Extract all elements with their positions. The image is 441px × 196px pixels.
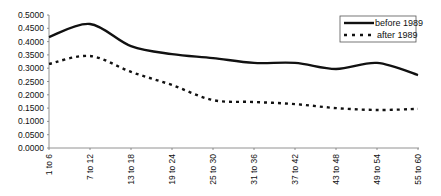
x-tick-label: 31 to 36 bbox=[249, 154, 259, 185]
x-tick-label: 19 to 24 bbox=[167, 154, 177, 185]
x-tick-label: 49 to 54 bbox=[372, 154, 382, 185]
x-tick-label: 55 to 60 bbox=[413, 154, 423, 185]
y-tick-label: 0.4000 bbox=[18, 37, 44, 47]
y-tick-label: 0.1500 bbox=[18, 103, 44, 113]
y-tick-label: 0.2500 bbox=[18, 77, 44, 87]
legend-label-after-1989: after 1989 bbox=[377, 30, 418, 40]
y-tick-label: 0.1000 bbox=[18, 116, 44, 126]
x-tick-label: 25 to 30 bbox=[208, 154, 218, 185]
x-tick-label: 1 to 6 bbox=[44, 154, 54, 176]
legend-label-before-1989: before 1989 bbox=[375, 18, 423, 28]
x-axis: 1 to 67 to 1213 to 1819 to 2425 to 3031 … bbox=[44, 148, 423, 185]
y-tick-label: 0.3500 bbox=[18, 50, 44, 60]
y-tick-label: 0.3000 bbox=[18, 63, 44, 73]
y-tick-label: 0.4500 bbox=[18, 23, 44, 33]
y-tick-label: 0.0000 bbox=[18, 143, 44, 153]
line-chart: 0.00000.05000.10000.15000.20000.25000.30… bbox=[0, 0, 441, 196]
y-tick-label: 0.5000 bbox=[18, 10, 44, 20]
y-tick-label: 0.0500 bbox=[18, 130, 44, 140]
x-tick-label: 37 to 42 bbox=[290, 154, 300, 185]
x-tick-label: 43 to 48 bbox=[331, 154, 341, 185]
y-tick-label: 0.2000 bbox=[18, 90, 44, 100]
y-axis: 0.00000.05000.10000.15000.20000.25000.30… bbox=[18, 10, 49, 153]
x-tick-label: 7 to 12 bbox=[85, 154, 95, 180]
legend: before 1989 after 1989 bbox=[340, 16, 423, 42]
x-tick-label: 13 to 18 bbox=[126, 154, 136, 185]
